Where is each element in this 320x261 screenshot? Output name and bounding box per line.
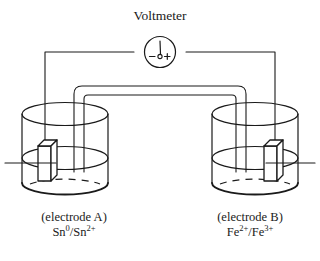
- electrode-b-caption-block: (electrode B) Fe2+/Fe3+: [180, 210, 320, 241]
- electrode-A: [38, 140, 57, 181]
- voltmeter-pivot: [158, 54, 162, 58]
- liquid-level-right: [212, 147, 298, 170]
- electrode-B: [264, 140, 283, 181]
- electrode-a-couple: Sn0/Sn2+: [4, 225, 144, 240]
- electrode-a-caption-block: (electrode A) Sn0/Sn2+: [4, 210, 144, 241]
- voltmeter-label: Voltmeter: [0, 8, 320, 24]
- salt-bridge: [74, 86, 246, 172]
- electrode-b-couple: Fe2+/Fe3+: [180, 225, 320, 240]
- liquid-level-left: [22, 147, 108, 170]
- figure-canvas: Voltmeter (electrode A) Sn0/Sn2+ (electr…: [0, 0, 320, 261]
- electrode-a-caption: (electrode A): [41, 210, 107, 224]
- electrode-b-caption: (electrode B): [217, 210, 283, 224]
- voltmeter-needle: [160, 41, 161, 54]
- beaker-left: [22, 103, 108, 195]
- beaker-right: [212, 103, 298, 195]
